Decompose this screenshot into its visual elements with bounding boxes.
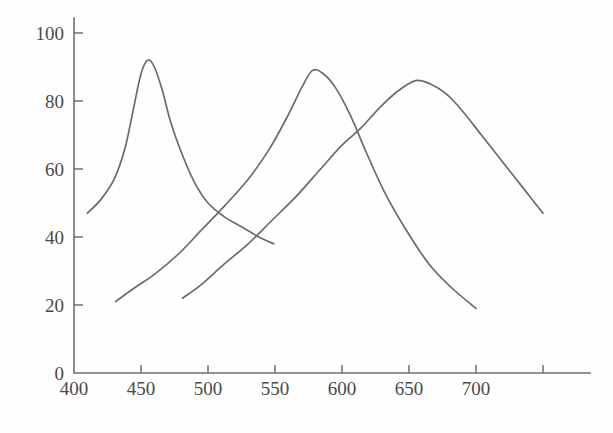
chart-page: 400450500550600650700 020406080100 (0, 0, 613, 433)
y-tick-label-100: 100 (36, 23, 65, 44)
y-tick-label-40: 40 (45, 227, 64, 248)
y-tick-label-60: 60 (45, 159, 64, 180)
x-axis-tick-labels: 400450500550600650700 (60, 378, 491, 399)
x-tick-label-700: 700 (462, 378, 491, 399)
curve-2 (116, 70, 476, 309)
x-tick-label-650: 650 (395, 378, 424, 399)
data-curves (87, 60, 543, 308)
y-axis-tick-labels: 020406080100 (36, 23, 65, 384)
x-axis-ticks (141, 365, 543, 373)
curve-1 (87, 60, 273, 244)
y-tick-label-20: 20 (45, 295, 64, 316)
y-tick-label-0: 0 (55, 363, 65, 384)
x-tick-label-600: 600 (328, 378, 357, 399)
spectral-response-chart: 400450500550600650700 020406080100 (0, 0, 613, 433)
x-tick-label-550: 550 (261, 378, 290, 399)
axis-lines (74, 18, 590, 373)
x-tick-label-400: 400 (60, 378, 89, 399)
curve-3 (183, 80, 543, 298)
x-tick-label-450: 450 (127, 378, 156, 399)
x-tick-label-500: 500 (194, 378, 223, 399)
y-tick-label-80: 80 (45, 91, 64, 112)
axes-group (74, 18, 590, 373)
y-axis-ticks (74, 33, 83, 305)
